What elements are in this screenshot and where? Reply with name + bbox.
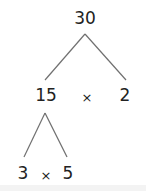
branch-15-to-3 [24,113,45,157]
node-3: 3 [18,165,29,182]
factor-tree-diagram: 30 15 × 2 3 × 5 [0,0,146,191]
node-5: 5 [63,165,74,182]
bottom-strip [0,185,146,191]
branch-15-to-5 [45,113,67,157]
multiply-operator-level2: × [41,169,52,182]
node-15: 15 [35,87,57,104]
branch-30-to-2 [85,34,126,80]
multiply-operator-level1: × [82,91,93,104]
root-node: 30 [74,10,96,27]
node-2: 2 [120,87,131,104]
branch-30-to-15 [45,34,85,80]
